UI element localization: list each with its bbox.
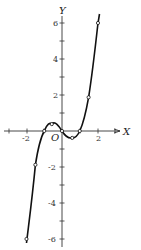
origin-label: O — [51, 132, 59, 143]
y-tick-label-neg2: -2 — [48, 163, 56, 172]
x-tick-label-2: 2 — [96, 134, 101, 143]
y-tick-label-neg4: -4 — [48, 199, 56, 208]
y-tick-label-2: 2 — [53, 91, 58, 100]
cubic-curve-main — [27, 14, 100, 243]
y-tick-label-4: 4 — [53, 55, 58, 64]
cubic-function-plot: -2 2 6 4 2 -2 -4 -6 X Y O — [0, 0, 141, 250]
y-tick-label-neg6: -6 — [48, 235, 56, 244]
y-tick-label-6: 6 — [53, 19, 58, 28]
x-axis-label: X — [122, 126, 131, 137]
y-axis-label: Y — [59, 5, 67, 16]
x-tick-label-neg2: -2 — [22, 134, 30, 143]
